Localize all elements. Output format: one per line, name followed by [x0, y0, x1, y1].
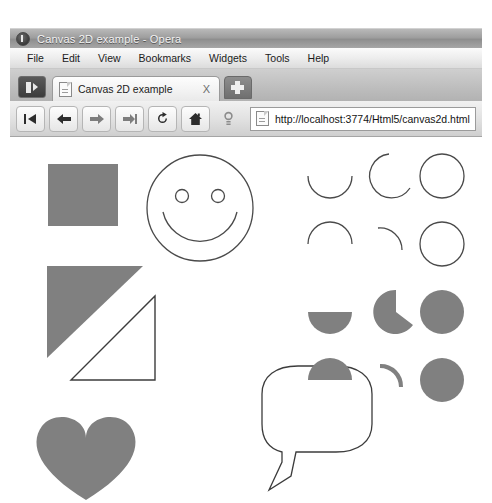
- menu-item-file[interactable]: File: [18, 50, 53, 66]
- fastforward-button[interactable]: [115, 106, 144, 132]
- browser-window: Canvas 2D example - Opera File Edit View…: [0, 0, 492, 503]
- page-content: [10, 138, 482, 503]
- magnifier-icon: [222, 111, 235, 126]
- back-button[interactable]: [49, 106, 78, 132]
- arc-grid: [308, 154, 464, 402]
- navigation-bar: http://localhost:3774/Html5/canvas2d.htm…: [10, 101, 482, 137]
- menu-item-help[interactable]: Help: [299, 50, 339, 66]
- arc-fill-half-bottom: [308, 312, 352, 334]
- home-button[interactable]: [181, 106, 210, 132]
- tab-label: Canvas 2D example: [78, 83, 200, 95]
- panels-toggle-button[interactable]: [18, 76, 46, 98]
- speech-bubble: [262, 366, 372, 490]
- title-bar: Canvas 2D example - Opera: [10, 28, 482, 48]
- canvas-2d-surface: [10, 138, 482, 503]
- arc-stroke-full-circle-2: [420, 222, 464, 266]
- smiley-eye-right-icon: [212, 190, 225, 203]
- filled-triangle: [47, 266, 143, 358]
- menu-item-bookmarks[interactable]: Bookmarks: [130, 50, 201, 66]
- menu-item-edit[interactable]: Edit: [53, 50, 89, 66]
- chevron-right-icon: [33, 83, 38, 91]
- fast-forward-icon: [122, 113, 138, 125]
- opera-icon: [16, 32, 30, 46]
- reload-icon: [155, 111, 170, 126]
- menu-item-widgets[interactable]: Widgets: [200, 50, 256, 66]
- arc-stroke-half-bottom: [308, 176, 352, 198]
- filled-heart: [36, 417, 135, 500]
- smiley-head-icon: [147, 155, 253, 261]
- home-icon: [188, 112, 203, 126]
- arc-fill-sliver: [380, 364, 403, 387]
- menu-item-tools[interactable]: Tools: [256, 50, 299, 66]
- arc-stroke-half-top: [308, 222, 352, 244]
- address-input[interactable]: http://localhost:3774/Html5/canvas2d.htm…: [275, 113, 470, 125]
- panel-bar-icon: [26, 82, 31, 93]
- arc-stroke-full-circle: [420, 154, 464, 198]
- tab-bar: Canvas 2D example X: [10, 69, 482, 101]
- rewind-icon: [23, 113, 38, 125]
- page-icon: [256, 111, 269, 126]
- rewind-button[interactable]: [16, 106, 45, 132]
- arc-fill-full-circle: [420, 290, 464, 334]
- menu-item-view[interactable]: View: [89, 50, 130, 66]
- menu-bar: File Edit View Bookmarks Widgets Tools H…: [10, 48, 482, 69]
- new-tab-button[interactable]: [224, 76, 252, 99]
- reload-button[interactable]: [148, 106, 177, 132]
- arc-stroke-three-quarter: [370, 154, 410, 198]
- arrow-left-icon: [56, 113, 72, 125]
- smiley-eye-left-icon: [176, 190, 189, 203]
- tab-canvas-2d-example[interactable]: Canvas 2D example X: [52, 76, 220, 101]
- address-bar[interactable]: http://localhost:3774/Html5/canvas2d.htm…: [250, 107, 476, 131]
- arc-fill-half-top: [308, 358, 352, 380]
- smiley-face: [147, 155, 253, 261]
- close-icon[interactable]: X: [200, 84, 213, 95]
- search-button[interactable]: [214, 106, 243, 132]
- filled-square: [48, 164, 118, 226]
- forward-button[interactable]: [82, 106, 111, 132]
- smiley-mouth-icon: [163, 212, 237, 241]
- page-icon: [59, 82, 72, 97]
- window-title: Canvas 2D example - Opera: [37, 33, 181, 45]
- arc-fill-three-quarter: [373, 290, 413, 334]
- arrow-right-icon: [89, 113, 105, 125]
- arc-stroke-quarter: [378, 228, 402, 250]
- arc-fill-full-circle-2: [420, 358, 464, 402]
